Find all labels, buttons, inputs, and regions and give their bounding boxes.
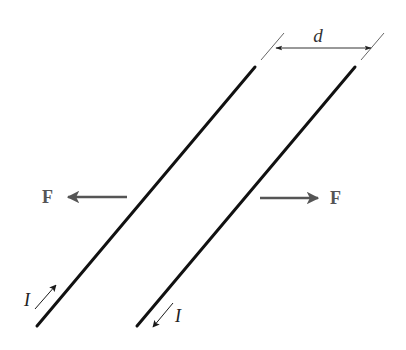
- current-label-left: I: [23, 290, 31, 310]
- parallel-wires-diagram: d F F I I: [0, 0, 406, 350]
- extension-line-right: [361, 33, 384, 60]
- force-label-left: F: [42, 187, 53, 207]
- right-wire: [137, 67, 355, 326]
- force-label-right: F: [330, 188, 341, 208]
- extension-line-left: [261, 33, 284, 60]
- current-arrow-right: [153, 303, 173, 327]
- current-label-right: I: [174, 306, 182, 326]
- separation-label: d: [313, 25, 323, 46]
